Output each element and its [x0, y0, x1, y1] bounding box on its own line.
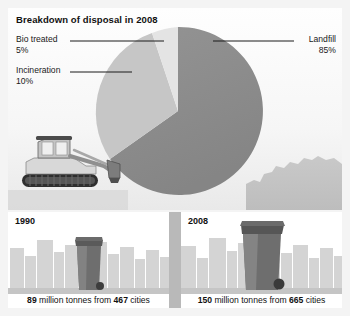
pie-label-incineration: Incineration 10%: [16, 65, 60, 87]
panel-1990-tonnes: 89: [27, 295, 37, 305]
pie-label-incineration-text: Incineration: [16, 65, 60, 76]
panel-2008-caption: 150 million tonnes from 665 cities: [181, 295, 342, 305]
pie-label-landfill-text: Landfill: [309, 34, 336, 45]
pie-chart-graphic: [8, 8, 342, 210]
panel-2008-tonnes: 150: [198, 295, 212, 305]
panel-1990-year: 1990: [15, 216, 35, 226]
panel-1990-graphic: [8, 212, 169, 308]
panel-2008-graphic: [181, 212, 342, 308]
pie-label-incineration-percent: 10%: [16, 76, 60, 87]
panel-divider: [169, 212, 181, 308]
panel-2008-cities: 665: [289, 295, 303, 305]
pie-label-landfill: Landfill 85%: [309, 34, 336, 56]
panel-1990-cities: 467: [114, 295, 128, 305]
year-panel-2008: 2008 150 million tonnes from 665 cities: [181, 212, 342, 308]
panel-2008-caption-end: cities: [303, 295, 325, 305]
infographic-root: Breakdown of disposal in 2008 Bio treate…: [0, 0, 350, 316]
wheelie-bin-icon: [75, 237, 104, 290]
year-panel-1990: 1990 89 million tonnes from 467 cities: [8, 212, 169, 308]
pie-label-bio-treated-text: Bio treated: [16, 34, 58, 45]
pie-label-bio-treated: Bio treated 5%: [16, 34, 58, 56]
panel-2008-year: 2008: [188, 216, 208, 226]
wheelie-bin-icon: [240, 221, 285, 290]
panel-1990-caption-mid: million tonnes from: [37, 295, 114, 305]
pie-label-landfill-percent: 85%: [309, 45, 336, 56]
pie-chart-panel: Breakdown of disposal in 2008 Bio treate…: [8, 8, 342, 210]
chart-title: Breakdown of disposal in 2008: [16, 14, 158, 25]
panel-1990-caption: 89 million tonnes from 467 cities: [8, 295, 169, 305]
panel-1990-caption-end: cities: [128, 295, 150, 305]
panel-2008-caption-mid: million tonnes from: [212, 295, 289, 305]
pie-label-bio-treated-percent: 5%: [16, 45, 58, 56]
